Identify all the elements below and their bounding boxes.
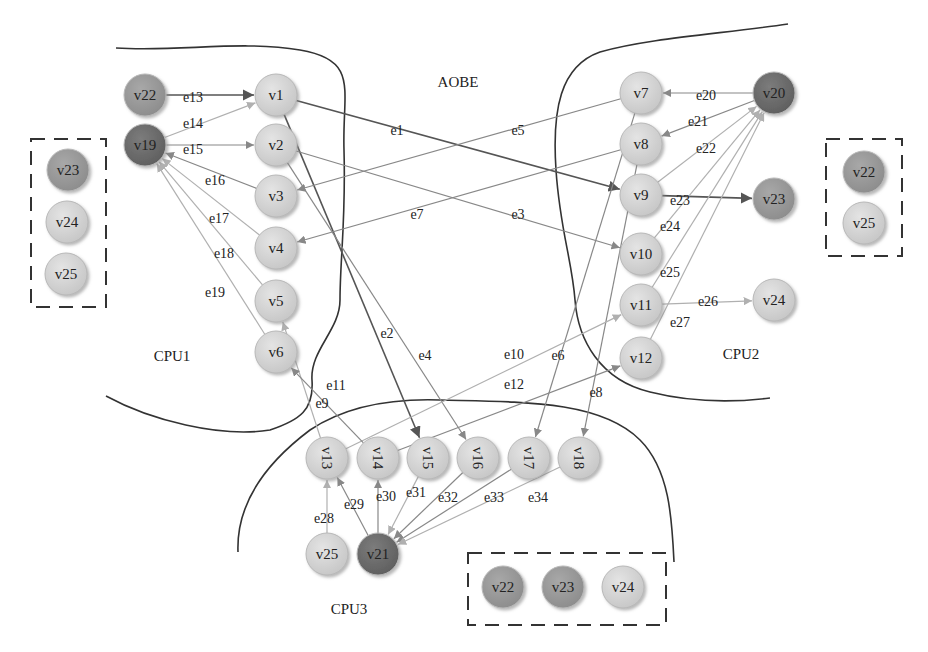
- node-label: v25: [316, 546, 339, 562]
- edge-e19: [157, 164, 265, 335]
- edge-label-e27: e27: [670, 315, 690, 330]
- node-v23a[interactable]: v23: [753, 178, 795, 220]
- node-label: v19: [134, 137, 157, 153]
- node-label: v23: [763, 191, 786, 207]
- edge-label-e29: e29: [344, 497, 364, 512]
- edge-label-e22: e22: [696, 141, 716, 156]
- node-label: v24: [763, 292, 786, 308]
- node-v24a[interactable]: v24: [753, 279, 795, 321]
- region-label-cpu3: CPU3: [331, 601, 368, 617]
- edge-label-e17: e17: [209, 211, 229, 226]
- node-label: v3: [269, 188, 284, 204]
- edge-e33: [397, 469, 512, 542]
- edge-label-e24: e24: [660, 219, 680, 234]
- task-graph-diagram: v23v24v25v22v25v22v23v24 v1v2v3v4v5v6v7v…: [0, 0, 928, 652]
- node-label: v22: [492, 579, 515, 595]
- node-label: v25: [55, 266, 78, 282]
- node-v25-replica[interactable]: v25: [843, 202, 885, 244]
- node-v10[interactable]: v10: [620, 233, 662, 275]
- node-label: v16: [470, 447, 486, 470]
- node-v22-replica[interactable]: v22: [482, 566, 524, 608]
- node-label: v15: [420, 447, 436, 470]
- edge-label-e15: e15: [183, 142, 203, 157]
- cpu2-boundary: [555, 24, 788, 401]
- node-v19[interactable]: v19: [124, 124, 166, 166]
- node-label: v18: [571, 447, 587, 470]
- node-label: v10: [630, 246, 653, 262]
- node-v11[interactable]: v11: [620, 284, 662, 326]
- node-v24-replica[interactable]: v24: [46, 201, 88, 243]
- node-v22-replica[interactable]: v22: [843, 151, 885, 193]
- node-v5[interactable]: v5: [255, 280, 297, 322]
- edge-label-e14: e14: [183, 116, 203, 131]
- edge-label-e12: e12: [504, 377, 524, 392]
- edge-e4: [287, 163, 466, 440]
- node-v12[interactable]: v12: [620, 337, 662, 379]
- node-v25-replica[interactable]: v25: [45, 253, 87, 295]
- node-label: v11: [630, 297, 652, 313]
- node-label: v22: [134, 87, 157, 103]
- node-v21[interactable]: v21: [357, 533, 399, 575]
- edge-label-e25: e25: [660, 265, 680, 280]
- node-v23-replica[interactable]: v23: [542, 566, 584, 608]
- node-v14[interactable]: v14: [357, 437, 399, 479]
- region-label-cpu2: CPU2: [723, 346, 760, 362]
- edge-label-e1: e1: [390, 123, 403, 138]
- region-label-cpu1: CPU1: [154, 348, 191, 364]
- diagram-canvas: v23v24v25v22v25v22v23v24 v1v2v3v4v5v6v7v…: [0, 0, 928, 652]
- group-cpu2: v22v25: [826, 139, 902, 256]
- node-label: v2: [269, 137, 284, 153]
- edge-label-e9: e9: [315, 396, 328, 411]
- edge-e6: [535, 113, 634, 437]
- edge-label-e23: e23: [670, 193, 690, 208]
- node-v24-replica[interactable]: v24: [602, 566, 644, 608]
- node-v22a[interactable]: v22: [124, 74, 166, 116]
- edge-label-e5: e5: [511, 123, 524, 138]
- node-v1[interactable]: v1: [255, 74, 297, 116]
- node-label: v25: [853, 215, 876, 231]
- node-v25a[interactable]: v25: [306, 533, 348, 575]
- node-v6[interactable]: v6: [255, 331, 297, 373]
- edge-label-e21: e21: [688, 114, 708, 129]
- node-v3[interactable]: v3: [255, 175, 297, 217]
- node-label: v22: [853, 164, 876, 180]
- node-v16[interactable]: v16: [457, 437, 499, 479]
- node-label: v14: [370, 447, 386, 470]
- edge-label-e16: e16: [205, 173, 225, 188]
- edge-e14: [165, 103, 256, 138]
- node-v17[interactable]: v17: [508, 437, 550, 479]
- node-v4[interactable]: v4: [255, 227, 297, 269]
- node-v13[interactable]: v13: [306, 437, 348, 479]
- nodes: v1v2v3v4v5v6v7v8v9v10v11v12v13v14v15v16v…: [124, 72, 795, 575]
- node-v15[interactable]: v15: [407, 437, 449, 479]
- node-label: v4: [269, 240, 285, 256]
- node-label: v9: [634, 187, 649, 203]
- edge-label-e7: e7: [410, 207, 423, 222]
- node-v2[interactable]: v2: [255, 124, 297, 166]
- node-label: v5: [269, 293, 284, 309]
- edge-label-e31: e31: [406, 485, 426, 500]
- node-label: v8: [634, 136, 649, 152]
- node-v23-replica[interactable]: v23: [47, 149, 89, 191]
- edge-e7: [297, 150, 621, 242]
- edge-label-e8: e8: [589, 385, 602, 400]
- edge-label-e11: e11: [326, 378, 346, 393]
- node-label: v13: [319, 447, 335, 470]
- node-label: v21: [367, 546, 390, 562]
- node-label: v6: [269, 344, 285, 360]
- labels: e1e2e3e4e5e6e7e8e9e10e11e12e13e14e15e16e…: [154, 74, 760, 617]
- edge-e32: [394, 473, 463, 539]
- node-label: v23: [57, 162, 80, 178]
- edge-label-e10: e10: [504, 347, 524, 362]
- node-v9[interactable]: v9: [620, 174, 662, 216]
- edge-label-e34: e34: [528, 490, 548, 505]
- node-v20[interactable]: v20: [753, 72, 795, 114]
- node-v18[interactable]: v18: [558, 437, 600, 479]
- edge-label-e30: e30: [376, 489, 396, 504]
- node-v7[interactable]: v7: [620, 72, 662, 114]
- edge-label-e28: e28: [314, 511, 334, 526]
- edge-label-e19: e19: [205, 285, 225, 300]
- group-cpu3: v22v23v24: [468, 553, 666, 625]
- node-v8[interactable]: v8: [620, 123, 662, 165]
- node-label: v24: [612, 579, 635, 595]
